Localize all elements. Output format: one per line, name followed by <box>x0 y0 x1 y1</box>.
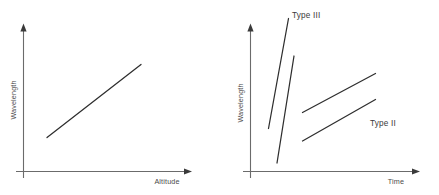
left-chart-panel: Wavelength Altitude <box>9 24 192 187</box>
left-chart-series-line <box>47 65 141 138</box>
right-chart-y-axis-label: Wavelength <box>236 83 245 122</box>
left-chart-y-axis <box>20 24 26 179</box>
left-chart-y-axis-arrow-icon <box>20 24 26 32</box>
right-chart-x-axis-arrow-icon <box>412 168 420 174</box>
left-chart-x-axis-label: Altitude <box>154 177 179 186</box>
left-chart-x-axis-arrow-icon <box>184 168 192 174</box>
right-chart-y-axis-arrow-icon <box>247 24 253 32</box>
right-chart-type-iii-line-2 <box>277 56 294 163</box>
left-chart-x-axis <box>16 168 192 174</box>
right-chart-type-iii-label: Type III <box>292 11 320 20</box>
right-chart-type-ii-label: Type II <box>370 119 396 128</box>
right-chart-type-ii-line-1 <box>303 74 376 113</box>
right-chart-panel: Type III Type II Wavelength Time <box>236 11 420 186</box>
two-panel-figure: Wavelength Altitude Type III <box>0 0 439 195</box>
right-chart-x-axis-label: Time <box>388 177 404 186</box>
right-chart-x-axis <box>243 168 420 174</box>
right-chart-y-axis <box>247 24 253 179</box>
right-chart-type-ii-line-2 <box>303 100 376 142</box>
left-chart-y-axis-label: Wavelength <box>9 80 18 119</box>
